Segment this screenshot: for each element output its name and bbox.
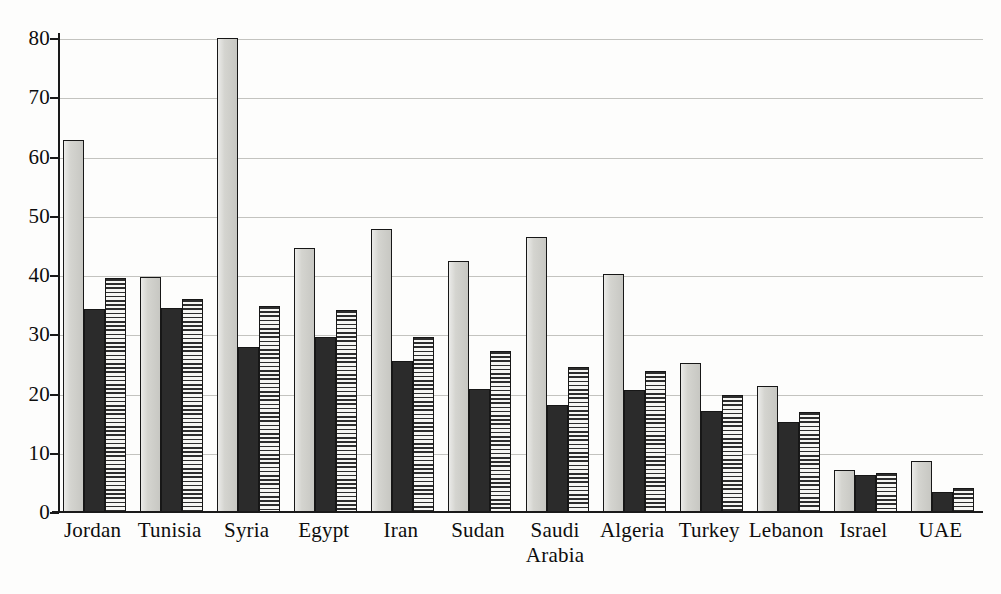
y-tick-50 — [50, 216, 59, 218]
x-axis-label: Algeria — [594, 518, 671, 543]
y-tick-40 — [50, 275, 59, 277]
y-axis-label-0: 0 — [4, 502, 50, 523]
x-axis-label: Syria — [208, 518, 285, 543]
y-tick-10 — [50, 453, 59, 455]
y-tick-20 — [50, 394, 59, 396]
y-tick-80 — [50, 38, 59, 40]
y-axis-label-40: 40 — [4, 265, 50, 286]
x-axis-label: Turkey — [671, 518, 748, 543]
y-tick-30 — [50, 334, 59, 336]
y-axis-tick-labels: 01020304050607080 — [0, 39, 50, 513]
x-axis-label: Lebanon — [748, 518, 825, 543]
y-axis-label-70: 70 — [4, 87, 50, 108]
y-tick-70 — [50, 97, 59, 99]
y-axis-label-50: 50 — [4, 206, 50, 227]
x-axis-label: Tunisia — [131, 518, 208, 543]
x-axis-label: Egypt — [285, 518, 362, 543]
y-axis-line — [58, 33, 60, 513]
x-axis-label: UAE — [902, 518, 979, 543]
y-tick-0 — [50, 512, 59, 514]
y-axis-label-30: 30 — [4, 324, 50, 345]
y-axis-label-60: 60 — [4, 147, 50, 168]
x-axis-label: Sudan — [439, 518, 516, 543]
x-axis-label: Jordan — [54, 518, 131, 543]
x-axis-line — [52, 511, 983, 513]
x-axis-label: Israel — [825, 518, 902, 543]
bar-chart-figure: 01020304050607080 JordanTunisiaSyriaEgyp… — [0, 0, 1001, 594]
axis-lines — [58, 39, 983, 513]
x-axis-label: Saudi Arabia — [517, 518, 594, 568]
y-tick-60 — [50, 157, 59, 159]
x-axis-label: Iran — [362, 518, 439, 543]
y-axis-label-10: 10 — [4, 443, 50, 464]
y-axis-label-80: 80 — [4, 28, 50, 49]
plot-area — [58, 39, 983, 513]
y-axis-label-20: 20 — [4, 384, 50, 405]
x-axis-category-labels: JordanTunisiaSyriaEgyptIranSudanSaudi Ar… — [58, 518, 983, 590]
